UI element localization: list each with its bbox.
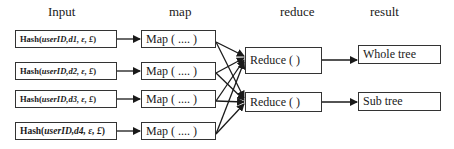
input-hash-3: Hash(userID,d3, ε, £) <box>15 90 117 108</box>
input-hash-1: Hash(userID,d1, ε, £) <box>15 30 117 48</box>
hash-suffix: ) <box>93 66 96 76</box>
hash-args: userID,d1, ε, £ <box>42 34 93 44</box>
result-whole-tree: Whole tree <box>358 45 441 64</box>
map-box-1: Map ( .... ) <box>141 30 216 48</box>
hash-args: userID,d2, ε, £ <box>42 66 93 76</box>
reduce-box-2: Reduce ( ) <box>245 92 322 112</box>
hash-prefix: Hash( <box>20 66 42 76</box>
hash-prefix: Hash( <box>20 34 42 44</box>
hash-prefix: Hash( <box>20 94 42 104</box>
hash-suffix: ) <box>93 94 96 104</box>
hash-args: userID,d3, ε, £ <box>42 94 93 104</box>
hash-args: userID,d4, ε, £ <box>44 126 101 136</box>
map-box-2: Map ( .... ) <box>141 62 216 80</box>
map-box-3: Map ( .... ) <box>141 90 216 108</box>
hash-suffix: ) <box>102 126 105 136</box>
reduce-box-1: Reduce ( ) <box>245 47 322 74</box>
result-sub-tree: Sub tree <box>358 92 441 111</box>
input-hash-2: Hash(userID,d2, ε, £) <box>15 62 117 80</box>
map-box-4: Map ( .... ) <box>141 122 216 140</box>
hash-prefix: Hash( <box>20 126 44 136</box>
input-hash-4: Hash(userID,d4, ε, £) <box>15 122 117 140</box>
hash-suffix: ) <box>93 34 96 44</box>
